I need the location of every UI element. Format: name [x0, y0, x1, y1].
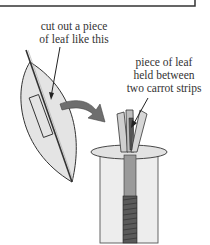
- held-leaf-label-line-1: piece of leaf: [118, 56, 210, 69]
- carrot-stem: [124, 155, 136, 197]
- top-frame-border: [0, 0, 195, 6]
- cut-leaf-label-line-2: of leaf like this: [28, 33, 120, 46]
- jar-illustration: [91, 110, 167, 243]
- leaf-illustration: [21, 50, 76, 182]
- held-leaf-label-line-2: held between: [118, 69, 210, 82]
- cut-leaf-label: cut out a piece of leaf like this: [28, 20, 120, 46]
- cut-leaf-label-line-1: cut out a piece: [28, 20, 120, 33]
- held-leaf-label: piece of leaf held between two carrot st…: [118, 56, 210, 95]
- held-leaf-label-line-3: two carrot strips: [118, 82, 210, 95]
